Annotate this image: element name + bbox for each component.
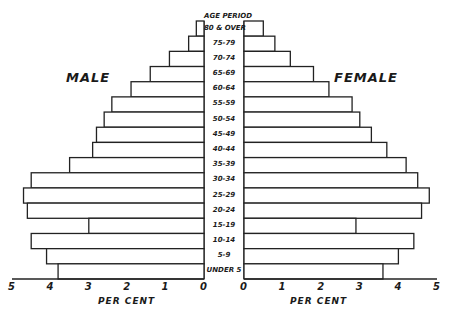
female-bar	[244, 249, 398, 264]
age-period-header: AGE PERIOD	[204, 12, 244, 20]
male-bar	[93, 142, 204, 157]
x-tick-left: 0	[200, 281, 207, 292]
male-bar	[131, 82, 204, 97]
age-group-label: 70-74	[204, 54, 244, 62]
female-bar	[244, 218, 356, 233]
x-tick-left: 4	[46, 281, 53, 292]
x-tick-left: 3	[85, 281, 92, 292]
male-bar	[89, 218, 204, 233]
age-group-label: 60-64	[204, 84, 244, 92]
male-bar	[112, 97, 204, 112]
age-group-label: 35-39	[204, 160, 244, 168]
female-bar	[244, 36, 275, 51]
x-tick-right: 3	[356, 281, 363, 292]
female-bar	[244, 142, 387, 157]
age-group-label: 80 & OVER	[204, 24, 244, 32]
female-bar	[244, 82, 329, 97]
age-group-label: 55-59	[204, 99, 244, 107]
female-label: FEMALE	[334, 70, 398, 85]
x-tick-left: 1	[162, 281, 169, 292]
age-group-label: 65-69	[204, 69, 244, 77]
male-label: MALE	[66, 70, 110, 85]
male-bar	[24, 188, 204, 203]
female-bar	[244, 97, 352, 112]
age-group-label: 45-49	[204, 130, 244, 138]
male-bar	[150, 67, 204, 82]
x-axis-title-right: PER CENT	[290, 296, 347, 306]
male-bar	[189, 36, 204, 51]
age-group-label: 40-44	[204, 145, 244, 153]
age-group-label: 15-19	[204, 221, 244, 229]
female-bar	[244, 264, 383, 279]
age-group-label: 10-14	[204, 236, 244, 244]
male-bar	[58, 264, 204, 279]
female-bar	[244, 67, 313, 82]
male-bar	[31, 173, 204, 188]
x-tick-right: 2	[317, 281, 324, 292]
age-group-label: 5-9	[204, 251, 244, 259]
x-tick-left: 5	[8, 281, 15, 292]
age-group-label: UNDER 5	[204, 266, 244, 274]
x-tick-right: 0	[240, 281, 247, 292]
female-bar	[244, 127, 371, 142]
female-bar	[244, 233, 414, 248]
male-bar	[27, 203, 204, 218]
female-bar	[244, 21, 263, 36]
female-bar	[244, 203, 422, 218]
x-axis-title-left: PER CENT	[98, 296, 155, 306]
x-tick-left: 2	[123, 281, 130, 292]
age-group-label: 50-54	[204, 115, 244, 123]
x-tick-right: 5	[433, 281, 440, 292]
male-bar	[96, 127, 204, 142]
age-group-label: 30-34	[204, 175, 244, 183]
female-bar	[244, 158, 406, 173]
female-bar	[244, 188, 429, 203]
x-tick-right: 1	[279, 281, 286, 292]
male-bar	[31, 233, 204, 248]
age-group-label: 75-79	[204, 39, 244, 47]
female-bar	[244, 112, 360, 127]
age-group-label: 20-24	[204, 206, 244, 214]
x-tick-right: 4	[394, 281, 401, 292]
female-bar	[244, 51, 290, 66]
male-bar	[104, 112, 204, 127]
male-bar	[196, 21, 204, 36]
male-bar	[169, 51, 204, 66]
age-group-label: 25-29	[204, 191, 244, 199]
female-bar	[244, 173, 418, 188]
male-bar	[70, 158, 204, 173]
male-bar	[47, 249, 204, 264]
